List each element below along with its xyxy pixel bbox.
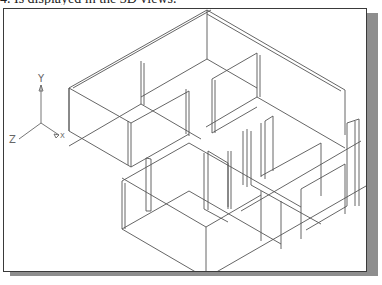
wall-edge <box>122 229 206 272</box>
wall-edge <box>141 104 201 139</box>
wall-edge <box>122 143 189 181</box>
wall-edge <box>69 104 141 146</box>
cad-viewport[interactable]: Y Z X <box>3 8 367 272</box>
ucs-icon: Y Z X <box>9 73 65 145</box>
wall-edge <box>131 91 189 123</box>
wall-edge <box>207 14 341 91</box>
wall-edge <box>189 191 281 244</box>
wall-edge <box>206 97 257 127</box>
wall-edge <box>73 10 211 88</box>
ucs-x-arrow-icon <box>54 134 59 138</box>
wall-edge <box>347 119 359 123</box>
ucs-y-label: Y <box>37 73 45 84</box>
ucs-z-axis <box>19 123 41 139</box>
wall-edge <box>131 134 189 167</box>
page-caption: 4. Is displayed in the 3D views. <box>0 0 382 5</box>
ucs-x-label: X <box>60 132 65 140</box>
wall-edge <box>265 116 273 121</box>
wall-edge <box>261 143 321 176</box>
wall-edge <box>69 131 131 167</box>
wall-edge <box>69 88 131 123</box>
wall-edge <box>141 59 207 97</box>
wall-edge <box>206 195 261 227</box>
ucs-x-axis <box>41 123 59 135</box>
wall-edge <box>306 206 347 230</box>
wall-edge <box>207 59 257 88</box>
wall-edge <box>146 158 151 159</box>
wall-edge <box>301 164 345 189</box>
wall-edge <box>208 151 228 163</box>
wall-edge <box>122 178 206 227</box>
wall-edge <box>257 97 345 148</box>
wall-edge <box>207 10 345 90</box>
wall-edge <box>189 143 301 207</box>
ucs-z-label: Z <box>9 134 16 145</box>
wireframe-model: Y Z X <box>4 9 367 272</box>
wall-edge <box>122 191 189 229</box>
wall-edge <box>251 185 321 224</box>
floor-plan-walls <box>69 10 366 272</box>
